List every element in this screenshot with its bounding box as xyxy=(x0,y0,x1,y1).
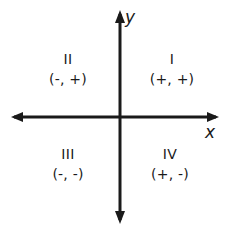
quadrant-one-label: I (+, +) xyxy=(127,51,217,87)
quadrant-four-label: IV (+, -) xyxy=(125,146,215,182)
quadrant-one-signs: (+, +) xyxy=(127,71,217,88)
quadrant-one-roman: I xyxy=(127,51,217,68)
quadrant-three-label: III (-, -) xyxy=(23,146,113,182)
quadrant-two-label: II (-, +) xyxy=(23,51,113,87)
x-axis-label: x xyxy=(205,124,215,141)
axes-graphic xyxy=(0,0,235,232)
x-axis-arrow-left-icon xyxy=(11,112,23,122)
y-axis-arrow-up-icon xyxy=(115,10,125,23)
quadrant-three-roman: III xyxy=(23,146,113,163)
y-axis-label: y xyxy=(125,9,135,26)
y-axis-arrow-down-icon xyxy=(115,211,125,224)
quadrant-two-roman: II xyxy=(23,51,113,68)
quadrant-three-signs: (-, -) xyxy=(23,166,113,183)
x-axis-arrow-right-icon xyxy=(207,112,219,122)
quadrant-four-signs: (+, -) xyxy=(125,166,215,183)
coordinate-plane-diagram: y x I (+, +) II (-, +) III (-, -) IV (+,… xyxy=(0,0,235,232)
quadrant-four-roman: IV xyxy=(125,146,215,163)
quadrant-two-signs: (-, +) xyxy=(23,71,113,88)
